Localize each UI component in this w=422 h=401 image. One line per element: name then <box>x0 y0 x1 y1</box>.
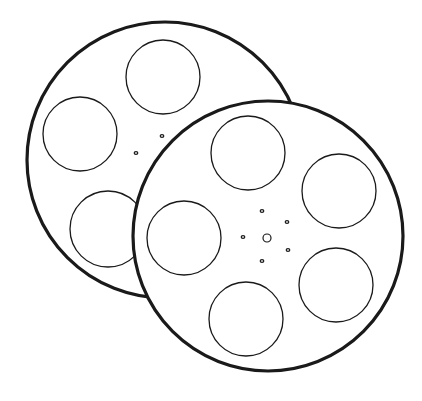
front-reel <box>133 101 403 371</box>
reel-rim <box>133 101 403 371</box>
film-reels-illustration <box>0 0 422 401</box>
